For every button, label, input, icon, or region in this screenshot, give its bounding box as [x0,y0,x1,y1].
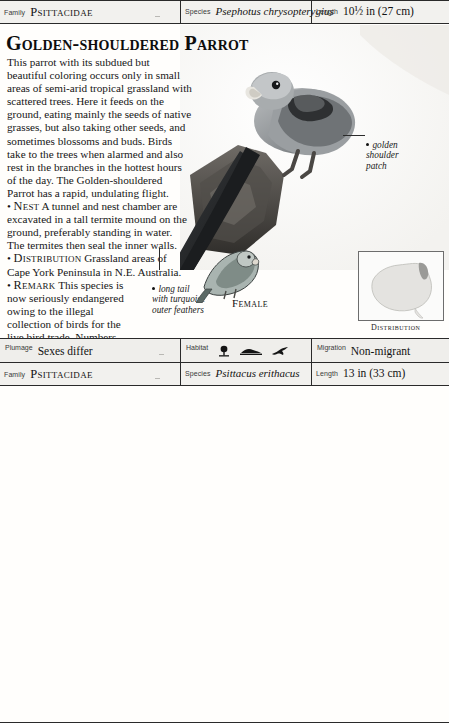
bird-flight-icon [271,345,289,357]
species-value: Psittacus erithacus [216,367,300,379]
distribution-map [358,251,444,321]
family-label: Family [4,9,25,16]
bullet-icon: • [7,252,14,264]
leader-line-golden-shoulder [343,135,365,136]
habitat-icon-group [217,344,289,358]
field-guide-page: Family Psittacidae Species Psephotus chr… [0,0,449,723]
callout-dot-icon [152,287,155,290]
length-cell: Length 13 in (33 cm) [311,363,449,385]
callout-dot-icon [366,143,369,146]
species-cell: Species Psephotus chrysopterygius [180,1,311,23]
bar-tick [159,354,164,355]
page-title: Golden-shouldered Parrot [6,32,249,55]
tree-icon [217,344,231,358]
species-label: Species [185,370,211,377]
australia-map [359,252,444,321]
plumage-label: Plumage [5,344,33,351]
annotation-text: golden shoulder patch [366,140,399,171]
female-illustration [196,241,266,303]
family-cell: Family Psittacidae [0,1,180,23]
bar-tick [155,378,160,379]
length-label: Length [316,370,338,377]
entry-frame: Family Psittacidae Species Psittacus eri… [0,362,449,723]
intro-text: This parrot with its subdued but beautif… [7,56,192,199]
bar-tick [155,16,160,17]
family-value: Psittacidae [30,5,93,20]
family-label: Family [4,371,25,378]
migration-cell: Migration Non-migrant [311,339,449,362]
nest-term: Nest [14,199,40,213]
family-cell: Family Psittacidae [0,363,180,385]
migration-label: Migration [317,344,346,351]
identification-bar: Family Psittacidae Species Psittacus eri… [0,363,449,386]
entry-frame: Family Psittacidae Species Psephotus chr… [0,0,449,362]
plumage-cell: Plumage Sexes differ [0,339,180,362]
identification-bar: Family Psittacidae Species Psephotus chr… [0,1,449,24]
habitat-cell: Habitat [180,339,311,362]
length-label: Length [316,8,338,15]
species-entry-gray-parrot: Family Psittacidae Species Psittacus eri… [0,362,449,723]
grassland-icon [240,345,262,357]
length-value: 13 in (33 cm) [343,367,405,379]
length-cell: Length 10½ in (27 cm) [311,1,449,23]
species-cell: Species Psittacus erithacus [180,363,311,385]
migration-value: Non-migrant [351,345,410,357]
nest-paragraph: • Nest A tunnel and nest chamber are exc… [7,200,192,252]
species-entry-golden-shouldered-parrot: Family Psittacidae Species Psephotus chr… [0,0,449,362]
leader-line-long-tail [159,248,160,270]
female-parrot-drawing [196,241,266,303]
bullet-icon: • [7,279,14,291]
family-value: Psittacidae [30,367,93,382]
bullet-icon: • [7,200,14,212]
habitat-label: Habitat [186,344,208,351]
species-label: Species [185,8,211,15]
female-label: Female [232,297,268,309]
annotation-golden-shoulder-patch: golden shoulder patch [366,129,436,171]
plumage-value: Sexes differ [38,345,93,357]
distribution-term: Distribution [14,251,82,265]
status-bar: Plumage Sexes differ Habitat [0,338,449,362]
distribution-caption: Distribution [371,323,420,332]
length-value: 10½ in (27 cm) [343,5,414,17]
remark-term: Remark [14,278,56,292]
intro-paragraph: This parrot with its subdued but beautif… [7,56,192,200]
